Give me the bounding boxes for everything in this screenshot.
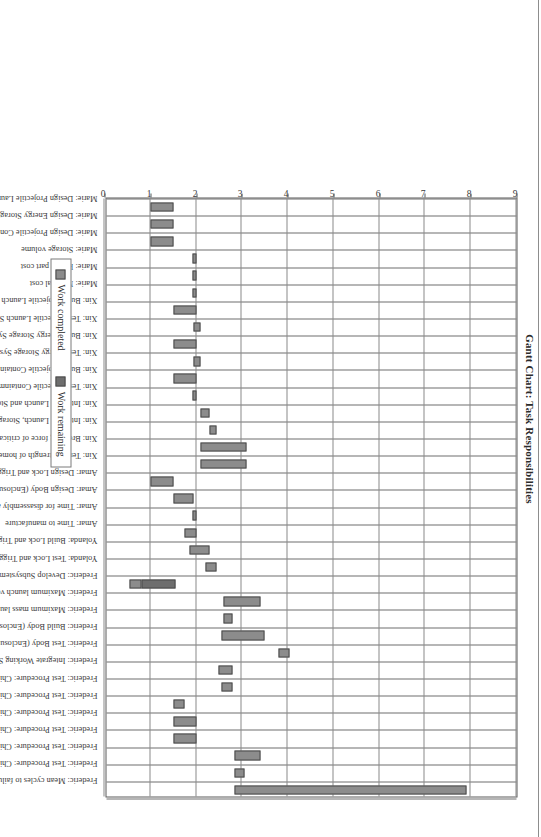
plot-area-wrapper [105, 197, 517, 797]
category-axis-label: Frederic: Maximum mass launch capability [0, 604, 97, 613]
gantt-bar [150, 476, 173, 485]
category-axis-label: Yolanda: Build Lock and Trigger System [0, 535, 97, 544]
gantt-bar [234, 785, 465, 794]
gantt-bar [193, 356, 200, 365]
category-axis-label: Xin: Integrate Launch, Storage, and Cont… [0, 415, 97, 424]
gantt-bar [192, 390, 195, 399]
gantt-bar [192, 288, 195, 297]
gantt-chart-figure: Gantt Chart: Task Responsibilities 01234… [0, 0, 541, 837]
category-gridline [106, 764, 516, 765]
category-gridline [106, 421, 516, 422]
gantt-bar-segment-work-completed [173, 339, 196, 348]
gantt-bar [223, 596, 260, 605]
gantt-bar [173, 373, 196, 382]
gantt-bar [200, 408, 209, 417]
gantt-bar [192, 510, 195, 519]
category-axis-label: Xin: Test Energy Storage System [0, 347, 97, 356]
category-gridline [106, 249, 516, 250]
gantt-bar [209, 425, 216, 434]
category-gridline [106, 438, 516, 439]
category-axis-label: Amar: Time for disassembly and reassembl… [0, 501, 97, 510]
gantt-bar [200, 442, 246, 451]
gantt-bar [173, 493, 194, 502]
gantt-bar-segment-work-completed [192, 253, 195, 262]
gantt-bar [221, 682, 232, 691]
gantt-bar [278, 648, 289, 657]
gantt-bar-segment-work-completed [173, 373, 196, 382]
gantt-bar-segment-work-completed [173, 493, 194, 502]
category-gridline [106, 798, 516, 799]
gantt-bar [173, 699, 184, 708]
category-axis-label: Frederic: Build Body (Enclosure System) [0, 621, 97, 630]
value-gridline [469, 198, 470, 796]
category-gridline [106, 352, 516, 353]
value-gridline [332, 198, 333, 796]
category-gridline [106, 215, 516, 216]
category-gridline [106, 369, 516, 370]
value-axis-tick [379, 193, 380, 197]
value-gridline [515, 198, 516, 796]
gantt-bar [189, 545, 210, 554]
category-gridline [106, 404, 516, 405]
category-gridline [106, 575, 516, 576]
gantt-bar-segment-work-completed [150, 476, 173, 485]
category-gridline [106, 661, 516, 662]
value-gridline [240, 198, 241, 796]
gantt-bar [234, 750, 259, 759]
gantt-bar-segment-work-completed [173, 699, 184, 708]
category-axis-label: Frederic: Develop Subsystem Requirements [0, 570, 97, 579]
gantt-bar-segment-work-completed [234, 768, 243, 777]
gantt-bar [218, 665, 232, 674]
page-divider [538, 0, 539, 837]
value-gridline [149, 198, 150, 796]
category-gridline [106, 472, 516, 473]
gantt-bar-segment-work-completed [173, 733, 196, 742]
gantt-bar-segment-work-completed [192, 510, 195, 519]
gantt-bar-segment-work-completed [221, 682, 232, 691]
page-title: Gantt Chart: Task Responsibilities [523, 0, 535, 837]
category-gridline [106, 712, 516, 713]
category-gridline [106, 678, 516, 679]
gantt-bar-segment-work-completed [221, 630, 264, 639]
category-axis-label: Xin: Build Energy Storage System [0, 330, 97, 339]
category-axis-label: Frederic: Test Body (Enclosure System) [0, 638, 97, 647]
gantt-bar-segment-work-completed [192, 390, 195, 399]
gantt-bar-segment-work-completed [150, 219, 173, 228]
gantt-bar-segment-work-completed [193, 322, 200, 331]
value-gridline [423, 198, 424, 796]
value-axis-tick [104, 193, 105, 197]
gantt-bar [234, 768, 243, 777]
legend-label-work-remaining: Work remaining [55, 391, 66, 456]
value-axis-tick [516, 193, 517, 197]
category-axis-label: Amar: Time to manufacture [5, 518, 97, 527]
category-axis-label: Frederic: Integrate Working System [0, 655, 97, 664]
gantt-bar-segment-work-completed [200, 459, 246, 468]
gantt-bar [129, 579, 175, 588]
category-axis-label: Frederic: Test Procedure: Child plays wi… [0, 724, 97, 733]
category-gridline [106, 644, 516, 645]
value-axis-tick [470, 193, 471, 197]
category-gridline [106, 781, 516, 782]
category-gridline [106, 524, 516, 525]
category-axis-label: Xin: Breaking force of critical componen… [0, 433, 97, 442]
gantt-bar-segment-work-completed [184, 528, 195, 537]
gantt-bar [223, 613, 232, 622]
value-axis-tick [241, 193, 242, 197]
category-axis-label: Marie: Storage volume [21, 244, 98, 253]
category-gridline [106, 592, 516, 593]
category-gridline [106, 198, 516, 199]
category-gridline [106, 627, 516, 628]
legend-swatch-work-remaining [56, 376, 66, 386]
category-gridline [106, 284, 516, 285]
value-gridline [286, 198, 287, 796]
gantt-bar-segment-work-completed [192, 270, 195, 279]
gantt-bar-segment-work-completed [129, 579, 140, 588]
category-gridline [106, 267, 516, 268]
gantt-bar-segment-work-completed [223, 613, 232, 622]
category-axis-label: Xin: Test Projectile Launch System [0, 313, 97, 322]
category-gridline [106, 318, 516, 319]
category-gridline [106, 558, 516, 559]
value-axis-tick [287, 193, 288, 197]
gantt-bar [192, 253, 195, 262]
gantt-bar-segment-work-completed [218, 665, 232, 674]
